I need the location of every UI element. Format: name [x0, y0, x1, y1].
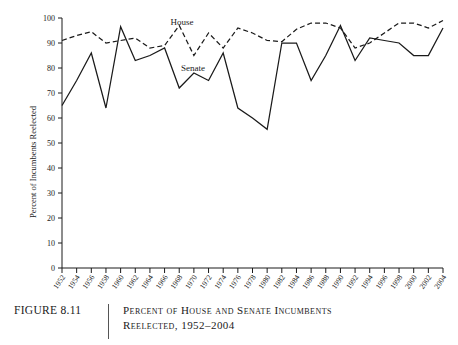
- x-tick-label: 1988: [315, 273, 331, 291]
- y-tick-label: 70: [47, 89, 55, 98]
- x-axis: 1952195419561958196019621964196619681970…: [51, 268, 448, 291]
- x-tick-label: 2000: [403, 273, 419, 291]
- line-chart: 0102030405060708090100 19521954195619581…: [0, 0, 458, 300]
- x-tick-label: 1956: [81, 273, 97, 291]
- y-tick-label: 30: [47, 189, 55, 198]
- data-series-group: [62, 21, 443, 130]
- x-tick-label: 1970: [183, 273, 199, 291]
- figure-number-label: FIGURE 8.11: [0, 303, 108, 316]
- x-tick-label: 1954: [66, 273, 82, 291]
- figure-container: 0102030405060708090100 19521954195619581…: [0, 0, 458, 345]
- y-tick-label: 80: [47, 64, 55, 73]
- y-tick-label: 0: [51, 264, 55, 273]
- x-tick-label: 1976: [227, 273, 243, 291]
- series-senate: [62, 26, 443, 130]
- x-tick-label: 1978: [242, 273, 258, 291]
- y-tick-label: 50: [47, 139, 55, 148]
- caption-text: Percent of House and Senate Incumbents R…: [109, 303, 458, 333]
- x-tick-label: 1972: [198, 273, 214, 291]
- x-tick-label: 2004: [432, 273, 448, 291]
- x-tick-label: 1996: [374, 273, 390, 291]
- figure-caption: FIGURE 8.11 Percent of House and Senate …: [0, 300, 458, 345]
- x-tick-label: 1984: [286, 273, 302, 291]
- x-tick-label: 1974: [212, 273, 228, 291]
- series-label-house: House: [171, 17, 194, 27]
- y-tick-label: 90: [47, 39, 55, 48]
- y-tick-label: 100: [43, 14, 55, 23]
- x-tick-label: 1980: [256, 273, 272, 291]
- x-tick-label: 1998: [388, 273, 404, 291]
- x-tick-label: 1968: [168, 273, 184, 291]
- caption-line-1: Percent of House and Senate Incumbents: [123, 303, 458, 318]
- series-label-senate: Senate: [181, 63, 205, 73]
- x-tick-label: 1992: [344, 273, 360, 291]
- y-axis-title: Percent of Incumbents Reelected: [28, 105, 38, 218]
- caption-line-2: Reelected, 1952–2004: [123, 318, 458, 333]
- x-tick-label: 1962: [124, 273, 140, 291]
- x-tick-label: 1958: [95, 273, 111, 291]
- chart-plot-area: 0102030405060708090100 19521954195619581…: [0, 0, 458, 300]
- y-axis: 0102030405060708090100: [43, 14, 62, 273]
- x-tick-label: 1964: [139, 273, 155, 291]
- y-tick-label: 40: [47, 164, 55, 173]
- y-tick-label: 20: [47, 214, 55, 223]
- y-tick-label: 60: [47, 114, 55, 123]
- x-tick-label: 1982: [271, 273, 287, 291]
- x-tick-label: 1966: [154, 273, 170, 291]
- x-tick-label: 2002: [418, 273, 434, 291]
- x-tick-label: 1986: [300, 273, 316, 291]
- x-tick-label: 1960: [110, 273, 126, 291]
- x-tick-label: 1990: [330, 273, 346, 291]
- x-tick-label: 1952: [51, 273, 67, 291]
- y-tick-label: 10: [47, 239, 55, 248]
- x-tick-label: 1994: [359, 273, 375, 291]
